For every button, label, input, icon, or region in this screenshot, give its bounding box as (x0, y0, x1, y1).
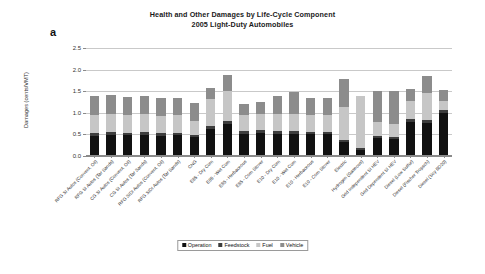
legend-item[interactable]: Operation (182, 242, 212, 248)
bar-segment-vehicle (173, 98, 182, 115)
bar-segment-vehicle (439, 90, 448, 101)
x-label-slot: E10 - Herbaceous (302, 157, 319, 229)
bar-segment-vehicle (406, 89, 415, 101)
bar-segment-fuel (356, 96, 365, 148)
bar[interactable] (173, 98, 182, 155)
bar-slot (169, 48, 186, 155)
bar-slot (302, 48, 319, 155)
legend-item[interactable]: Fuel (256, 242, 273, 248)
bar[interactable] (223, 75, 232, 155)
x-label-slot: RFG SIDI Autos (Convent. Oil) (153, 157, 170, 229)
bar[interactable] (289, 92, 298, 155)
bar-segment-operation (190, 137, 199, 155)
bar-segment-vehicle (106, 95, 115, 114)
bar-segment-fuel (389, 124, 398, 137)
bar-slot (386, 48, 403, 155)
bar[interactable] (356, 96, 365, 155)
bar-segment-fuel (106, 114, 115, 132)
bar[interactable] (323, 98, 332, 155)
bar-slot (419, 48, 436, 155)
bar-segment-operation (323, 134, 332, 155)
bar-slot (435, 48, 452, 155)
x-label-slot: E10 - Corn Stover (319, 157, 336, 229)
bar[interactable] (306, 98, 315, 155)
legend-label: Fuel (262, 242, 273, 248)
bar-segment-operation (422, 123, 431, 155)
bar-segment-vehicle (389, 91, 398, 124)
bar[interactable] (439, 90, 448, 155)
bar-segment-operation (223, 124, 232, 155)
bar-segment-vehicle (206, 88, 215, 99)
legend-label: Vehicle (286, 242, 303, 248)
bar-segment-operation (90, 136, 99, 155)
bar[interactable] (90, 96, 99, 155)
chart-title: Health and Other Damages by Life-Cycle C… (0, 10, 485, 29)
legend-item[interactable]: Vehicle (280, 242, 303, 248)
bar[interactable] (422, 76, 431, 155)
bar[interactable] (389, 91, 398, 155)
bar-group (86, 48, 452, 155)
bar-segment-fuel (339, 107, 348, 140)
bar[interactable] (156, 98, 165, 155)
bar-segment-operation (389, 139, 398, 155)
bar-segment-vehicle (373, 91, 382, 122)
y-tick-label: 0.5 (73, 131, 81, 137)
bar-segment-operation (339, 142, 348, 155)
bar-segment-fuel (173, 115, 182, 132)
y-tick-label: 1.0 (73, 110, 81, 116)
x-label-slot: E85 - Herbaceous (236, 157, 253, 229)
bar-slot (286, 48, 303, 155)
bar-segment-operation (140, 135, 149, 155)
bar-segment-vehicle (223, 75, 232, 91)
bar-segment-vehicle (422, 76, 431, 94)
bar[interactable] (123, 97, 132, 155)
bar[interactable] (140, 96, 149, 155)
bar-slot (186, 48, 203, 155)
bar-segment-operation (373, 138, 382, 155)
bar-segment-fuel (223, 91, 232, 121)
bar-segment-operation (106, 135, 115, 155)
bar[interactable] (106, 95, 115, 155)
bar-segment-operation (206, 129, 215, 155)
bar-segment-operation (306, 134, 315, 155)
x-label-slot: E85 - Corn Stover (252, 157, 269, 229)
bar[interactable] (273, 96, 282, 155)
bar-segment-fuel (90, 115, 99, 133)
bar-segment-fuel (239, 115, 248, 131)
bar[interactable] (190, 103, 199, 155)
bar-segment-vehicle (323, 98, 332, 114)
bar-segment-fuel (422, 93, 431, 120)
bar[interactable] (373, 91, 382, 155)
bar-segment-vehicle (156, 98, 165, 116)
legend-swatch-icon (218, 243, 222, 247)
bar[interactable] (239, 104, 248, 155)
bar[interactable] (206, 88, 215, 155)
y-tick-label: 2.5 (73, 45, 81, 51)
bar-segment-operation (289, 134, 298, 155)
bar[interactable] (256, 102, 265, 155)
x-axis-tick-label: Electric (333, 159, 347, 173)
bar-slot (202, 48, 219, 155)
bar-segment-vehicle (190, 103, 199, 121)
bar-segment-vehicle (123, 97, 132, 116)
y-axis-title: Damages (cents/VMT) (23, 72, 29, 128)
bar-segment-operation (256, 133, 265, 155)
bar[interactable] (406, 89, 415, 155)
legend-label: Operation (188, 242, 212, 248)
chart-legend: OperationFeedstockFuelVehicle (177, 240, 308, 251)
bar[interactable] (339, 79, 348, 155)
bar-slot (269, 48, 286, 155)
plot-area: 0.00.51.01.52.02.5 (86, 48, 452, 156)
bar-slot (369, 48, 386, 155)
bar-segment-fuel (256, 114, 265, 131)
chart-figure: a Health and Other Damages by Life-Cycle… (0, 0, 485, 274)
bar-slot (219, 48, 236, 155)
legend-item[interactable]: Feedstock (218, 242, 249, 248)
y-tick-label: 1.5 (73, 88, 81, 94)
legend-swatch-icon (182, 243, 186, 247)
bar-segment-fuel (190, 121, 199, 135)
x-axis-tick-label: CNG (187, 159, 198, 170)
bar-slot (136, 48, 153, 155)
bar-segment-vehicle (239, 104, 248, 115)
bar-slot (103, 48, 120, 155)
